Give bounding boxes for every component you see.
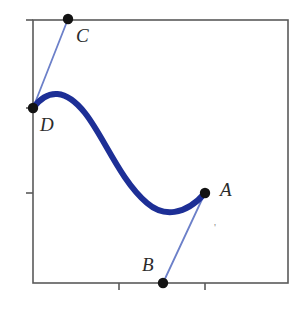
control-point-b-label: B [142, 255, 154, 274]
stray-tick-mark: ' [214, 222, 216, 233]
control-point-c[interactable] [63, 14, 73, 24]
bezier-curve [33, 94, 205, 212]
control-points-group [28, 14, 210, 288]
tangent-lines [33, 19, 205, 283]
control-point-a[interactable] [200, 188, 210, 198]
control-point-b[interactable] [158, 278, 168, 288]
control-point-d-label: D [40, 115, 54, 134]
control-point-a-label: A [220, 180, 232, 199]
control-point-d[interactable] [28, 103, 38, 113]
control-point-c-label: C [76, 26, 89, 45]
plot-frame [33, 20, 288, 283]
figure-canvas: CDAB ' [0, 0, 301, 313]
